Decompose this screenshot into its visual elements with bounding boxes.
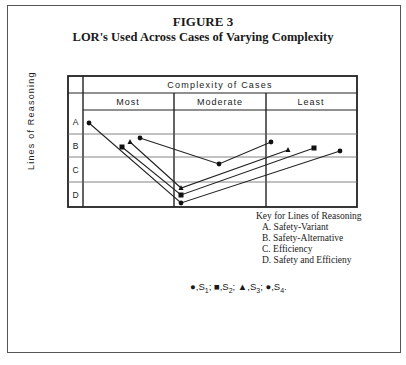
row-c: C [72, 165, 78, 175]
col-most: Most [116, 97, 140, 107]
y-axis-label: Lines of Reasoning [26, 71, 36, 170]
s1-marker [179, 201, 184, 206]
series-s2-line [122, 147, 314, 195]
s2-marker [120, 145, 125, 150]
s1-marker [338, 149, 343, 154]
s3-marker [286, 147, 291, 152]
row-b: B [73, 141, 79, 151]
s3-marker [128, 139, 133, 144]
square-marker-icon: ■ [214, 281, 220, 292]
complexity-header: Complexity of Cases [167, 80, 272, 90]
chart-plot: Complexity of Cases Most Moderate Least … [0, 0, 406, 365]
series-key: ●,S1; ■,S2; ▲,S3; ●,S4. [190, 281, 287, 294]
key-item-a: A. Safety-Variant [262, 222, 362, 233]
key-heading: Key for Lines of Reasoning [256, 211, 362, 222]
col-moderate: Moderate [197, 97, 243, 107]
s2-marker [179, 193, 184, 198]
triangle-marker-icon: ▲ [238, 281, 247, 292]
row-d: D [72, 190, 78, 200]
lines-of-reasoning-key: Key for Lines of Reasoning A. Safety-Var… [256, 211, 362, 266]
circle-marker-icon: ● [190, 281, 196, 292]
s4-marker [217, 162, 222, 167]
key-item-d: D. Safety and Efficieny [262, 255, 362, 266]
col-least: Least [297, 97, 324, 107]
key-item-b: B. Safety-Alternative [262, 233, 362, 244]
series-s4-line [140, 138, 271, 164]
s1-marker [87, 121, 92, 126]
circle-marker-icon: ● [265, 281, 271, 292]
key-item-c: C. Efficiency [262, 244, 362, 255]
s4-marker [138, 136, 143, 141]
s2-marker [312, 146, 317, 151]
row-a: A [73, 117, 79, 127]
s4-marker [269, 140, 274, 145]
table-border [68, 76, 357, 207]
